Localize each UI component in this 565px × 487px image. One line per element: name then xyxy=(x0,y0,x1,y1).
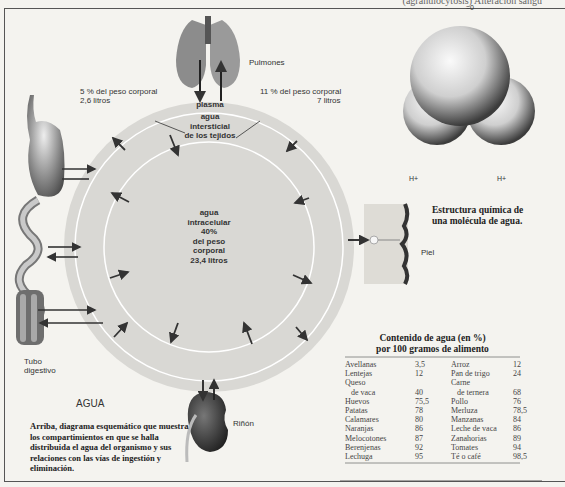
table-row: Calamares80Manzanas84 xyxy=(345,415,539,424)
water-molecule-illustration xyxy=(403,26,535,145)
plasma-liters: 2,6 litros xyxy=(80,96,110,105)
table-row: Berenjenas92Tomates94 xyxy=(345,443,539,452)
table-row: Huevos75,5Pollo76 xyxy=(345,397,539,406)
lungs-illustration xyxy=(176,16,240,88)
table-row: Avellanas3,5Arroz12 xyxy=(345,360,539,369)
intracellular-label: agua intracelular 40% del peso corporal … xyxy=(169,208,249,265)
table-row: QuesoCarne xyxy=(345,378,539,387)
hydrogen-right-label: H+ xyxy=(497,174,506,183)
molecule-caption: Estructura química de una molécula de ag… xyxy=(432,205,523,227)
skin-label: Piel xyxy=(421,248,434,257)
diagram-title: AGUA xyxy=(76,398,104,409)
table-row: Melocotones87Zanahorias89 xyxy=(345,434,539,443)
interstitial-percent: 11 % del peso corporal xyxy=(260,87,341,96)
kidney-label: Riñón xyxy=(233,419,254,428)
diagram-caption: Arriba, diagrama esquemático que muestra… xyxy=(30,421,195,474)
food-table-title: Contenido de agua (en %) por 100 gramos … xyxy=(345,333,520,355)
oxygen-label: =0 xyxy=(466,3,474,12)
table-row: Naranjas86Leche de vaca86 xyxy=(345,424,539,433)
hydrogen-left-label: H+ xyxy=(409,174,418,183)
table-row: Lechuga95Té o café98,5 xyxy=(345,452,539,461)
interstitial-label: agua intersticial de los tejidos xyxy=(170,112,250,141)
table-row: de vaca40 de ternera68 xyxy=(345,388,539,397)
table-row: Patatas78Merluza78,5 xyxy=(345,406,539,415)
digestive-tract-illustration xyxy=(16,95,65,345)
digestive-tract-label: Tubo digestivo xyxy=(24,357,56,375)
skin-illustration xyxy=(364,204,408,284)
plasma-label: plasma xyxy=(186,100,234,110)
interstitial-liters: 7 litros xyxy=(317,96,341,105)
lungs-label: Pulmones xyxy=(249,58,285,67)
food-water-table: Avellanas3,5Arroz12 Lentejas12Pan de tri… xyxy=(345,360,539,461)
plasma-percent: 5 % del peso corporal xyxy=(80,87,157,96)
table-row: Lentejas12Pan de trigo24 xyxy=(345,369,539,378)
